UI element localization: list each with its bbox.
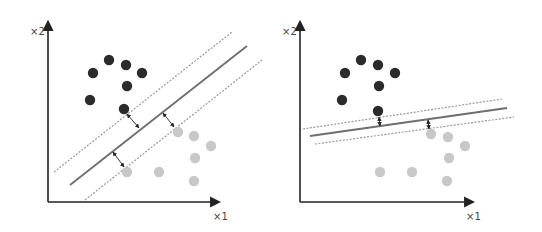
- class-b-point: [426, 129, 436, 139]
- class-a-point: [137, 68, 147, 78]
- class-a-point: [390, 68, 400, 78]
- class-b-point: [206, 141, 216, 151]
- margin-distance-arrow: [113, 152, 124, 167]
- class-b-point: [190, 153, 200, 163]
- margin-distance-arrow: [127, 114, 139, 128]
- margin-distance-arrow: [163, 113, 174, 127]
- class-b-point: [189, 176, 199, 186]
- wide-margin-panel: ×1×2: [30, 22, 262, 222]
- class-a-point: [104, 55, 114, 65]
- class-a-point: [373, 60, 383, 70]
- y-axis-label: ×2: [282, 26, 297, 37]
- class-a-point: [119, 104, 129, 114]
- class-a-point: [88, 68, 98, 78]
- class-b-point: [442, 176, 452, 186]
- class-a-point: [374, 81, 384, 91]
- svm-diagram: ×1×2 ×1×2: [0, 0, 542, 232]
- class-b-point: [154, 167, 164, 177]
- class-a-point: [122, 81, 132, 91]
- class-b-point: [375, 167, 385, 177]
- margin-upper-line: [54, 32, 232, 172]
- class-a-point: [337, 95, 347, 105]
- margin-distance-arrow: [428, 120, 429, 129]
- class-a-point: [85, 95, 95, 105]
- class-b-point: [460, 141, 470, 151]
- y-axis-label: ×2: [30, 26, 45, 37]
- class-a-point: [373, 106, 383, 116]
- narrow-margin-panel: ×1×2: [282, 22, 514, 222]
- hyperplane-line: [70, 46, 247, 185]
- class-b-point: [189, 131, 199, 141]
- class-b-point: [443, 132, 453, 142]
- x-axis-label: ×1: [466, 211, 481, 222]
- class-b-point: [444, 153, 454, 163]
- margin-distance-arrow: [379, 117, 380, 126]
- class-a-point: [340, 68, 350, 78]
- class-b-point: [122, 167, 132, 177]
- class-a-point: [356, 55, 366, 65]
- hyperplane-line: [310, 108, 507, 136]
- class-b-point: [407, 167, 417, 177]
- class-a-point: [121, 60, 131, 70]
- margin-upper-line: [303, 99, 502, 129]
- class-b-point: [173, 127, 183, 137]
- x-axis-label: ×1: [213, 211, 228, 222]
